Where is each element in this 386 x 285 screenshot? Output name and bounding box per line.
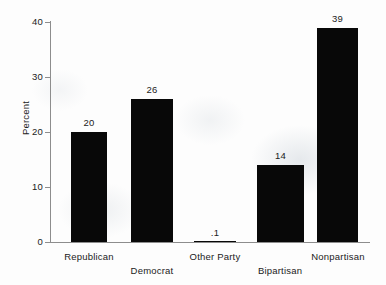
y-tick-mark-10 [45, 187, 50, 188]
category-label-other-party: Other Party [178, 251, 252, 262]
bar-value-nonpartisan: 39 [317, 13, 358, 24]
y-tick-label-10: 10 [32, 182, 43, 192]
bar-bipartisan [257, 165, 304, 242]
y-tick-mark-0 [45, 242, 50, 243]
category-label-republican: Republican [49, 251, 129, 262]
y-tick-mark-20 [45, 132, 50, 133]
bar-value-republican: 20 [71, 117, 107, 128]
bar-nonpartisan [317, 28, 358, 242]
x-axis-line [50, 242, 370, 243]
category-label-democrat: Democrat [117, 265, 187, 276]
y-axis-title: Percent [20, 88, 31, 148]
bar-democrat [131, 99, 173, 242]
y-axis-line [50, 21, 51, 243]
bar-value-bipartisan: 14 [257, 150, 304, 161]
bar-republican [71, 132, 107, 242]
y-tick-mark-40 [45, 22, 50, 23]
chart-page: Percent 0 10 20 30 40 20 26 .1 14 39 Rep… [0, 0, 386, 285]
y-tick-label-0: 0 [38, 237, 43, 247]
bar-other-party [194, 241, 236, 242]
y-tick-label-30: 30 [32, 72, 43, 82]
category-label-nonpartisan: Nonpartisan [298, 251, 378, 262]
bar-value-other-party: .1 [194, 227, 236, 238]
bar-value-democrat: 26 [131, 84, 173, 95]
y-tick-label-20: 20 [32, 127, 43, 137]
y-tick-mark-30 [45, 77, 50, 78]
bar-chart-plot-area: Percent 0 10 20 30 40 20 26 .1 14 39 Rep… [0, 0, 386, 285]
category-label-bipartisan: Bipartisan [243, 265, 317, 276]
y-tick-label-40: 40 [32, 17, 43, 27]
